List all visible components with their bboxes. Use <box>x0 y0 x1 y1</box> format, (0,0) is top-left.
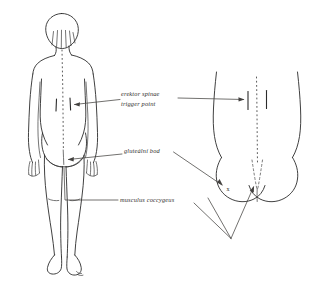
left-knee-line <box>49 199 59 201</box>
leader-v-branch-left <box>208 198 231 239</box>
left-hand-outline <box>29 160 40 176</box>
trunk-right-waist <box>79 79 86 145</box>
anatomical-diagram: x erektor spin <box>0 0 327 299</box>
annotation-leaders <box>64 97 254 238</box>
detail-right-buttock <box>249 158 298 202</box>
detail-left-buttock <box>216 158 265 202</box>
detail-right-flank <box>293 72 301 158</box>
label-erector-spinae-line1: erektor spinae <box>121 90 160 97</box>
right-foot-outline <box>67 255 82 275</box>
head-outline <box>46 13 79 48</box>
left-leg-outer <box>44 155 54 255</box>
leader-erector-right <box>178 98 244 100</box>
arrowhead-erector-left <box>74 102 80 106</box>
gluteal-point-x-marker: x <box>227 186 230 192</box>
neck-outline <box>55 47 57 56</box>
label-group: erektor spinae trigger point gluteální b… <box>120 90 175 203</box>
detail-spine-midline-dotted <box>257 77 258 163</box>
left-arm-outline <box>28 74 32 163</box>
label-gluteal-point: gluteální bod <box>124 147 161 154</box>
buttocks-detail-view: x <box>213 72 301 202</box>
label-musculus-coccygeus: musculus coccygeus <box>120 196 175 203</box>
leader-coccygeus-right <box>194 203 231 239</box>
leader-gluteal-right <box>174 152 223 185</box>
torso-left-outline <box>33 56 55 75</box>
detail-gluteal-cleft-left <box>252 160 257 189</box>
leader-erector-left <box>75 100 121 105</box>
detail-gluteal-cleft-right <box>258 160 263 189</box>
left-leg-inner <box>61 167 63 258</box>
hips-outline <box>42 133 87 167</box>
gluteal-fold-left <box>47 159 63 167</box>
leader-v-branch-right <box>231 187 254 239</box>
detail-left-flank <box>213 72 221 158</box>
label-erector-spinae-line2: trigger point <box>121 100 156 107</box>
full-body-posterior-view <box>28 13 97 275</box>
right-arm-outline <box>93 74 97 163</box>
trunk-left-waist <box>40 79 47 145</box>
spine-midline-dotted <box>62 50 63 150</box>
arrowhead-gluteal-left <box>68 157 74 161</box>
right-leg-outer <box>75 155 84 255</box>
right-leg-inner <box>66 167 68 258</box>
leader-coccygeus-left <box>64 168 118 200</box>
arrowhead-erector-right <box>238 97 244 101</box>
left-foot-outline <box>47 255 61 274</box>
neck-outline-right <box>69 46 72 55</box>
diagram-canvas: x erektor spin <box>0 0 327 299</box>
gluteal-cleft-line <box>63 150 64 165</box>
torso-right-outline <box>72 55 94 74</box>
right-hand-outline <box>87 160 98 176</box>
